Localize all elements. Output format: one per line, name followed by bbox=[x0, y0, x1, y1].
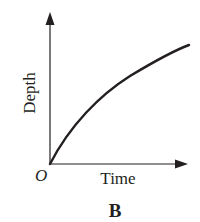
x-axis-label: Time bbox=[100, 169, 135, 188]
x-axis-arrow-icon bbox=[175, 160, 188, 169]
y-axis-arrow-icon bbox=[46, 12, 55, 25]
y-axis-label: Depth bbox=[20, 72, 39, 114]
panel-label: B bbox=[109, 200, 122, 221]
origin-label: O bbox=[35, 166, 47, 185]
data-curve bbox=[50, 45, 189, 164]
chart: O Time Depth B bbox=[0, 0, 200, 222]
